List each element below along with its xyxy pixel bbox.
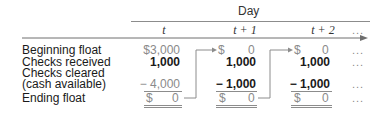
value-t1-ending-float: 0: [248, 91, 255, 105]
double-rule-t1-1: [216, 105, 257, 106]
double-rule-t-2: [144, 107, 182, 108]
double-rule-t2-1: [291, 105, 332, 106]
double-rule-t2-2: [291, 107, 332, 108]
value-t-checks-cleared: − 4,000: [122, 77, 180, 91]
day-group-header: Day: [238, 4, 259, 18]
timeline-arrow-icon: [20, 33, 370, 43]
currency-t-ending: $: [146, 91, 153, 105]
row-label-ending-float: Ending float: [22, 91, 85, 105]
currency-t1-ending: $: [219, 91, 226, 105]
carryover-arrow-icon: [180, 44, 220, 104]
value-t2-ending-float: 0: [322, 91, 329, 105]
ellipsis-beginning-float: ...: [352, 44, 364, 56]
ellipsis-checks-received: ...: [352, 56, 364, 68]
carryover-arrow-icon: [256, 44, 296, 104]
header-rule: [131, 21, 370, 22]
value-t-checks-received: 1,000: [122, 55, 180, 69]
value-t-ending-float: 0: [172, 91, 179, 105]
double-rule-t-1: [144, 105, 182, 106]
double-rule-t1-2: [216, 107, 257, 108]
ellipsis-ending-float: ...: [352, 92, 364, 104]
ellipsis-checks-cleared: ...: [352, 78, 364, 90]
row-label-cash-available: (cash available): [22, 77, 106, 91]
